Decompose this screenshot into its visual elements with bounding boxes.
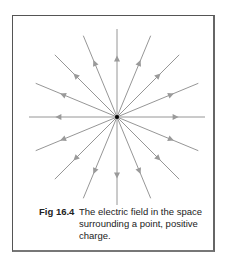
field-line — [117, 117, 179, 179]
field-line — [117, 55, 179, 117]
arrowhead-icon — [173, 114, 179, 120]
point-charge — [115, 115, 119, 119]
figure-caption-text: The electric field in the space surround… — [79, 206, 209, 242]
field-line — [55, 55, 117, 117]
arrowhead-icon — [114, 55, 120, 61]
field-line — [55, 117, 117, 179]
arrowhead-icon — [55, 114, 61, 120]
figure-label: Fig 16.4 — [39, 206, 74, 218]
arrowhead-icon — [114, 173, 120, 179]
